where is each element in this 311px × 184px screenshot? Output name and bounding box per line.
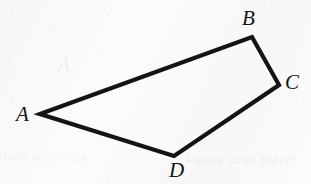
quadrilateral-figure: A faint print show-through Figure scan b… [0, 0, 311, 184]
vertex-label-d: D [169, 160, 184, 181]
vertex-label-c: C [285, 72, 299, 93]
vertex-label-b: B [242, 8, 255, 29]
quadrilateral-svg [0, 0, 311, 184]
quadrilateral-outline [40, 37, 279, 156]
vertex-label-a: A [16, 104, 29, 125]
